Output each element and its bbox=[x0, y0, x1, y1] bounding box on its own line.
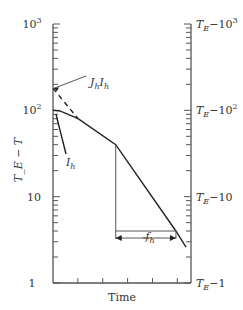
right-tick-label-1: TE−1 bbox=[196, 277, 225, 292]
x-axis-label: Time bbox=[108, 291, 136, 304]
annotation-ih: Ih bbox=[65, 156, 76, 171]
right-tick-label-100: TE−102 bbox=[196, 102, 238, 119]
y-tick-label-100: 102 bbox=[22, 102, 41, 117]
fh-arrowhead-right bbox=[170, 235, 176, 241]
chart-svg: 1 10 102 103 TE−1 TE−10 TE−102 TE−103 Ti… bbox=[0, 0, 243, 310]
fh-arrowhead-left bbox=[116, 235, 122, 241]
ih-leader-line bbox=[56, 114, 66, 154]
annotation-fh: fh bbox=[144, 230, 154, 245]
y-tick-label-1: 1 bbox=[29, 277, 36, 290]
right-tick-label-1000: TE−103 bbox=[196, 16, 238, 33]
jh-ih-leader-line bbox=[54, 76, 86, 88]
annotation-jh-ih: JhIh bbox=[88, 76, 109, 91]
y-tick-label-10: 10 bbox=[27, 191, 41, 204]
heating-curve-line bbox=[53, 110, 186, 247]
y-tick-label-1000: 103 bbox=[22, 16, 41, 31]
right-tick-label-10: TE−10 bbox=[196, 191, 232, 206]
y-axis-label: T_E − T bbox=[12, 136, 25, 182]
